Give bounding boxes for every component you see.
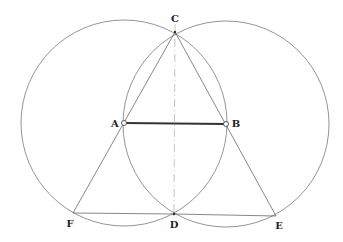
point-b-marker	[224, 122, 229, 127]
label-d: D	[170, 219, 179, 230]
label-c: C	[171, 13, 179, 24]
geometry-diagram: C A B F D E	[0, 0, 343, 242]
line-d-e	[174, 214, 276, 216]
label-e: E	[275, 220, 283, 231]
segment-ab	[124, 123, 226, 124]
label-f: F	[66, 218, 73, 229]
point-a-marker	[122, 121, 127, 126]
point-d-marker	[173, 213, 175, 215]
line-f-d	[73, 213, 174, 214]
symmetry-axis-cd	[174, 24, 175, 216]
label-b: B	[232, 118, 240, 129]
label-a: A	[110, 118, 119, 129]
point-c-marker	[174, 31, 176, 33]
